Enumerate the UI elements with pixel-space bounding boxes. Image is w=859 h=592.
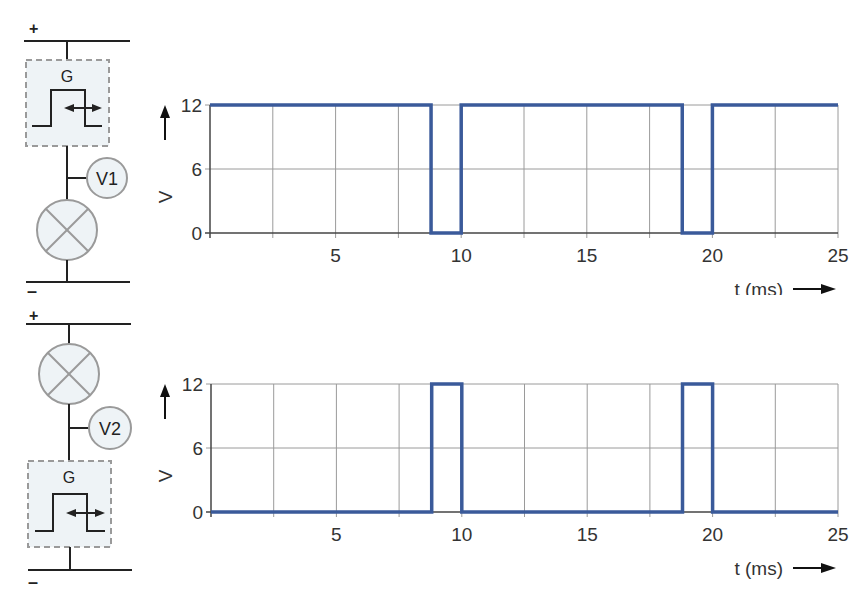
y-tick-label: 12: [182, 374, 203, 395]
lamp-icon: [39, 344, 99, 404]
x-tick-label: 25: [827, 524, 848, 545]
x-tick-label: 5: [331, 524, 342, 545]
y-tick-label: 6: [191, 159, 202, 180]
pulse-generator: G: [28, 461, 111, 547]
generator-label: G: [63, 469, 75, 486]
y-tick-label: 0: [192, 502, 203, 523]
chart-v2: 0612510152025Vt (ms): [150, 295, 859, 592]
x-tick-label: 5: [330, 245, 341, 266]
up-arrow-icon: [160, 105, 170, 140]
y-tick-label: 0: [191, 223, 202, 244]
circuit-2: + V2 G –: [0, 295, 160, 592]
right-arrow-icon: [793, 563, 836, 573]
x-tick-label: 20: [702, 524, 723, 545]
circuit-1: + G V1 –: [0, 0, 160, 295]
meter-label: V2: [99, 419, 121, 439]
up-arrow-icon: [160, 384, 170, 419]
minus-terminal-label: –: [27, 281, 37, 295]
x-tick-label: 15: [577, 524, 598, 545]
x-tick-label: 10: [451, 524, 472, 545]
x-axis-label: t (ms): [734, 279, 783, 295]
meter-label: V1: [96, 169, 118, 189]
y-axis-label: V: [155, 469, 176, 482]
plus-terminal-label: +: [29, 20, 38, 37]
x-tick-label: 20: [702, 245, 723, 266]
voltmeter-v2: V2: [89, 407, 131, 449]
right-arrow-icon: [793, 284, 836, 294]
lamp-icon: [37, 200, 97, 260]
y-tick-label: 6: [192, 438, 203, 459]
x-tick-label: 25: [827, 245, 848, 266]
x-tick-label: 10: [451, 245, 472, 266]
chart-v1: 0612510152025Vt (ms): [150, 0, 859, 295]
pulse-generator: G: [26, 60, 109, 146]
voltmeter-v1: V1: [87, 158, 127, 198]
minus-terminal-label: –: [28, 572, 38, 592]
plus-terminal-label: +: [29, 307, 38, 324]
y-axis-label: V: [155, 190, 176, 203]
x-tick-label: 15: [576, 245, 597, 266]
y-tick-label: 12: [181, 95, 202, 116]
generator-label: G: [61, 68, 73, 85]
x-axis-label: t (ms): [734, 558, 783, 579]
